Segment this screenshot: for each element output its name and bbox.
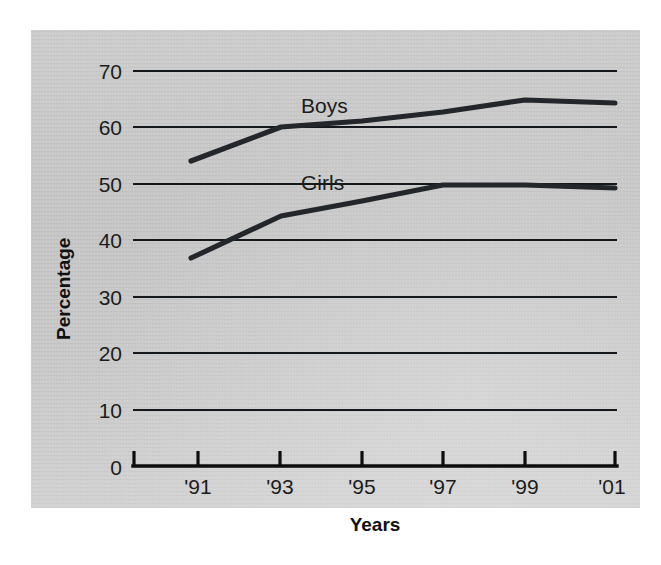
x-tick-label-01: '01 <box>598 475 625 498</box>
x-tick-label-93: '93 <box>266 475 293 498</box>
x-tick-label-97: '97 <box>429 475 456 498</box>
series-line-boys <box>191 100 615 161</box>
y-tick-label-10: 10 <box>99 399 122 422</box>
series-lines <box>191 100 615 258</box>
line-chart: 70 60 50 40 30 20 10 0 Percentage '91 '9… <box>0 0 661 565</box>
y-axis-tick-labels: 70 60 50 40 30 20 10 0 <box>99 60 122 479</box>
y-tick-label-20: 20 <box>99 342 122 365</box>
x-axis-title: Years <box>350 514 401 535</box>
y-tick-label-0: 0 <box>110 456 122 479</box>
x-tick-label-91: '91 <box>184 475 211 498</box>
series-line-girls <box>191 185 615 258</box>
y-tick-label-60: 60 <box>99 116 122 139</box>
x-axis <box>133 451 617 466</box>
figure-container: 70 60 50 40 30 20 10 0 Percentage '91 '9… <box>0 0 661 565</box>
x-tick-label-99: '99 <box>511 475 538 498</box>
y-tick-label-50: 50 <box>99 173 122 196</box>
y-tick-label-40: 40 <box>99 229 122 252</box>
x-axis-tick-labels: '91 '93 '95 '97 '99 '01 <box>184 475 625 498</box>
y-tick-label-30: 30 <box>99 286 122 309</box>
series-label-girls: Girls <box>301 171 344 194</box>
y-axis-title: Percentage <box>53 238 74 340</box>
series-label-boys: Boys <box>301 94 348 117</box>
y-tick-label-70: 70 <box>99 60 122 83</box>
x-tick-label-95: '95 <box>348 475 375 498</box>
